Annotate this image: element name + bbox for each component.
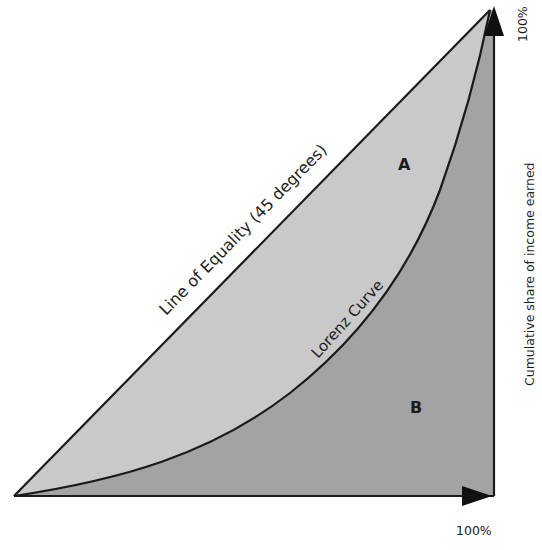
y-axis-max-label: 100%	[515, 6, 530, 42]
x-axis-max-label: 100%	[456, 523, 492, 538]
region-b-label: B	[410, 398, 422, 417]
y-axis-title: Cumulative share of income earned	[522, 162, 537, 386]
region-a-label: A	[398, 155, 411, 174]
lorenz-curve-diagram: Line of Equality (45 degrees) Lorenz Cur…	[0, 0, 542, 550]
